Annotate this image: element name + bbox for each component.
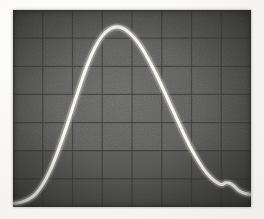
crt-screen xyxy=(13,10,251,207)
oscilloscope-photograph xyxy=(0,0,264,219)
film-grain-overlay xyxy=(13,10,251,150)
